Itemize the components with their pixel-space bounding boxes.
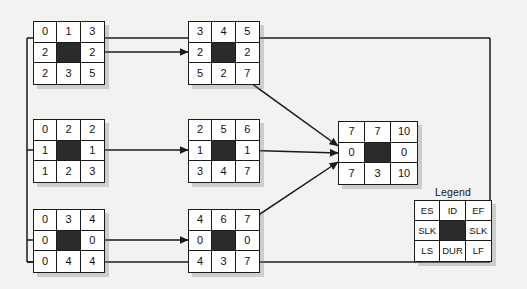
- cell-center-block: [57, 231, 80, 252]
- cell-ef: 5: [236, 22, 259, 43]
- cell-ls: 4: [189, 251, 212, 272]
- cell-center-block: [57, 43, 80, 64]
- cell-es: 7: [339, 122, 365, 143]
- cell-es: 0: [34, 120, 57, 141]
- cell-ef: 3: [81, 22, 104, 43]
- node-bottom-center[interactable]: 4 6 7 0 0 4 3 7: [188, 209, 260, 273]
- cell-lf: 3: [81, 161, 104, 182]
- cell-ef: 10: [391, 122, 417, 143]
- cell-dur: 3: [212, 251, 235, 272]
- legend-cell-lf: LF: [466, 241, 491, 261]
- cell-ls: 3: [189, 161, 212, 182]
- node-top-center[interactable]: 3 4 5 2 2 5 2 7: [188, 21, 260, 85]
- cell-slack-left: 2: [34, 43, 57, 64]
- cell-id: 6: [212, 210, 235, 231]
- cell-es: 3: [189, 22, 212, 43]
- cell-center-block: [57, 141, 80, 162]
- cell-slack-right: 0: [391, 143, 417, 164]
- cell-lf: 7: [236, 251, 259, 272]
- cell-slack-right: 0: [81, 231, 104, 252]
- node-middle-left[interactable]: 0 2 2 1 1 1 2 3: [33, 119, 105, 183]
- cell-id: 7: [365, 122, 391, 143]
- cell-lf: 7: [236, 161, 259, 182]
- cell-dur: 3: [57, 63, 80, 84]
- cell-ls: 5: [189, 63, 212, 84]
- cell-slack-right: 1: [236, 141, 259, 162]
- legend-cell-ls: LS: [415, 241, 440, 261]
- cell-center-block: [365, 143, 391, 164]
- cell-ef: 2: [81, 120, 104, 141]
- cell-id: 2: [57, 120, 80, 141]
- node-right[interactable]: 7 7 10 0 0 7 3 10: [338, 121, 418, 185]
- legend-cell-es: ES: [415, 201, 440, 221]
- legend-cell-dur: DUR: [440, 241, 465, 261]
- cell-id: 3: [57, 210, 80, 231]
- legend-title: Legend: [414, 186, 492, 198]
- legend-cell-center-block: [440, 221, 465, 241]
- cell-lf: 5: [81, 63, 104, 84]
- legend-cell-slk-left: SLK: [415, 221, 440, 241]
- cell-slack-right: 0: [236, 231, 259, 252]
- node-middle-center[interactable]: 2 5 6 1 1 3 4 7: [188, 119, 260, 183]
- cell-es: 2: [189, 120, 212, 141]
- cell-ef: 7: [236, 210, 259, 231]
- cell-dur: 4: [57, 251, 80, 272]
- legend-cell-ef: EF: [466, 201, 491, 221]
- cell-id: 5: [212, 120, 235, 141]
- cell-ef: 4: [81, 210, 104, 231]
- cell-id: 4: [212, 22, 235, 43]
- cell-ls: 7: [339, 163, 365, 184]
- cell-slack-left: 1: [34, 141, 57, 162]
- cell-es: 0: [34, 210, 57, 231]
- cell-slack-right: 1: [81, 141, 104, 162]
- cell-center-block: [212, 141, 235, 162]
- cell-es: 0: [34, 22, 57, 43]
- cell-center-block: [212, 43, 235, 64]
- cell-id: 1: [57, 22, 80, 43]
- legend-node: ES ID EF SLK SLK LS DUR LF: [414, 200, 492, 262]
- cell-slack-left: 2: [189, 43, 212, 64]
- cell-lf: 4: [81, 251, 104, 272]
- legend: Legend ES ID EF SLK SLK LS DUR LF: [414, 186, 492, 262]
- network-diagram: 0 1 3 2 2 2 3 5 3 4 5 2 2 5 2 7 0 2 2 1 …: [0, 0, 527, 289]
- legend-cell-slk-right: SLK: [466, 221, 491, 241]
- cell-ls: 1: [34, 161, 57, 182]
- cell-ef: 6: [236, 120, 259, 141]
- cell-lf: 10: [391, 163, 417, 184]
- cell-slack-left: 1: [189, 141, 212, 162]
- cell-ls: 0: [34, 251, 57, 272]
- cell-slack-left: 0: [189, 231, 212, 252]
- cell-slack-left: 0: [34, 231, 57, 252]
- legend-cell-id: ID: [440, 201, 465, 221]
- cell-center-block: [212, 231, 235, 252]
- cell-slack-left: 0: [339, 143, 365, 164]
- node-top-left[interactable]: 0 1 3 2 2 2 3 5: [33, 21, 105, 85]
- cell-es: 4: [189, 210, 212, 231]
- cell-slack-right: 2: [236, 43, 259, 64]
- cell-dur: 2: [57, 161, 80, 182]
- cell-slack-right: 2: [81, 43, 104, 64]
- cell-dur: 2: [212, 63, 235, 84]
- cell-ls: 2: [34, 63, 57, 84]
- cell-dur: 4: [212, 161, 235, 182]
- node-bottom-left[interactable]: 0 3 4 0 0 0 4 4: [33, 209, 105, 273]
- cell-dur: 3: [365, 163, 391, 184]
- cell-lf: 7: [236, 63, 259, 84]
